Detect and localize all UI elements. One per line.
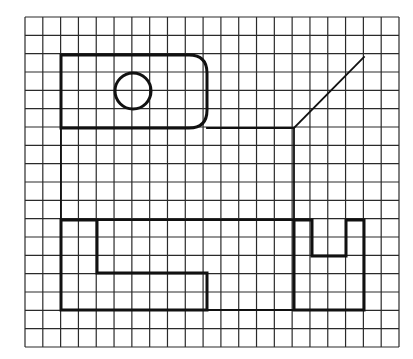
- projection-diagram: [0, 0, 413, 359]
